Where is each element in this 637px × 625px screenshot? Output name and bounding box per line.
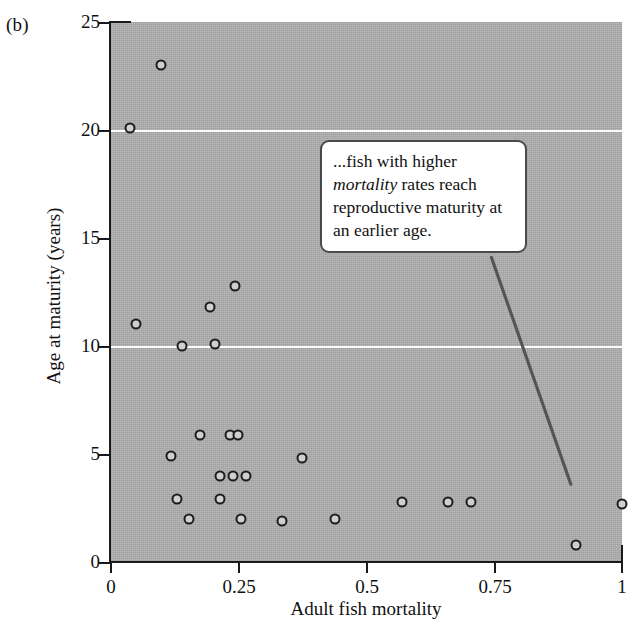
data-point — [204, 302, 215, 313]
data-point — [233, 429, 244, 440]
x-tick-075 — [494, 562, 496, 573]
x-tick-1 — [621, 562, 623, 573]
x-tick-label-0: 0 — [81, 576, 141, 598]
y-axis-line — [109, 21, 111, 563]
data-point — [171, 494, 182, 505]
y-tick-25 — [99, 22, 110, 24]
x-tick-05 — [366, 562, 368, 573]
x-tick-label-05: 0.5 — [337, 576, 397, 598]
y-axis-title: Age at maturity (years) — [43, 136, 65, 456]
y-tick-label-0: 0 — [0, 551, 100, 573]
plot-area — [110, 22, 622, 562]
data-point — [240, 470, 251, 481]
y-tick-10 — [99, 346, 110, 348]
y-tick-20 — [99, 130, 110, 132]
plot-texture — [110, 22, 622, 562]
data-point — [194, 429, 205, 440]
data-point — [130, 319, 141, 330]
x-tick-025 — [238, 562, 240, 573]
x-axis-title: Adult fish mortality — [110, 598, 622, 620]
data-point — [617, 498, 628, 509]
data-point — [235, 513, 246, 524]
data-point — [396, 496, 407, 507]
callout-text-before: ...fish with higher — [333, 151, 457, 171]
y-axis-top-cap — [109, 21, 131, 23]
data-point — [166, 451, 177, 462]
x-tick-label-075: 0.75 — [465, 576, 525, 598]
data-point — [156, 60, 167, 71]
y-tick-label-25: 25 — [0, 11, 100, 33]
gridline-y-20 — [110, 130, 622, 132]
data-point — [330, 513, 341, 524]
data-point — [215, 470, 226, 481]
data-point — [209, 338, 220, 349]
data-point — [125, 122, 136, 133]
data-point — [276, 515, 287, 526]
data-point — [465, 496, 476, 507]
y-tick-15 — [99, 238, 110, 240]
data-point — [215, 494, 226, 505]
data-point — [297, 453, 308, 464]
data-point — [442, 496, 453, 507]
x-tick-0 — [110, 562, 112, 573]
callout-annotation: ...fish with higher mortality rates reac… — [320, 140, 527, 253]
data-point — [570, 539, 581, 550]
data-point — [227, 470, 238, 481]
y-tick-5 — [99, 454, 110, 456]
figure-panel-b: (b) 25 20 15 10 5 0 0 0.25 0.5 0.75 1 Ag… — [0, 0, 637, 625]
data-point — [230, 280, 241, 291]
x-tick-label-1: 1 — [592, 576, 637, 598]
data-point — [176, 341, 187, 352]
x-tick-label-025: 0.25 — [209, 576, 269, 598]
data-point — [184, 513, 195, 524]
y-tick-0 — [99, 562, 110, 564]
x-axis-right-cap — [621, 545, 623, 563]
callout-emphasis: mortality — [333, 174, 397, 194]
